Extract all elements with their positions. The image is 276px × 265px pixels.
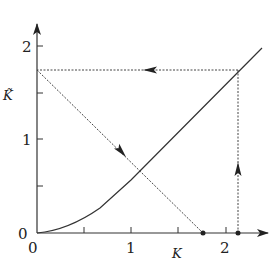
x-tick-label-2: 2 xyxy=(220,239,230,257)
x-axis: 0 1 2 K xyxy=(28,227,268,261)
x-tick-label-1: 1 xyxy=(126,239,136,257)
arrow-down-right-icon xyxy=(114,144,126,157)
end-point-dot xyxy=(201,231,206,236)
y-origin-label: 0 xyxy=(18,225,28,243)
map-curve xyxy=(37,48,262,233)
y-tick-label-1: 1 xyxy=(22,131,32,149)
arrow-up-icon xyxy=(235,162,242,176)
y-axis-label: K̃ xyxy=(2,88,14,103)
x-axis-label: K xyxy=(171,246,183,261)
cobweb-path xyxy=(37,70,238,233)
start-point-dot xyxy=(236,231,241,236)
cobweb-diagram: 2 1 0 K̃ 0 1 2 K xyxy=(0,0,276,265)
y-axis: 2 1 0 K̃ xyxy=(2,24,43,243)
y-tick-label-2: 2 xyxy=(22,38,32,56)
x-tick-label-0: 0 xyxy=(28,239,38,257)
arrow-left-icon xyxy=(143,67,157,74)
